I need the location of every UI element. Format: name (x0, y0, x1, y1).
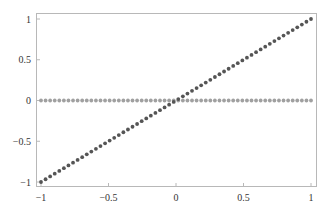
data-point (144, 99, 148, 103)
data-point (117, 99, 121, 103)
data-point (186, 99, 190, 103)
data-point (263, 45, 267, 49)
data-point (231, 64, 235, 68)
data-point (204, 81, 208, 85)
data-point (62, 166, 66, 170)
data-point (236, 61, 240, 65)
data-point (48, 175, 52, 179)
data-point (208, 99, 212, 103)
data-point (190, 99, 194, 103)
data-point (135, 99, 139, 103)
data-point (199, 83, 203, 87)
data-point (71, 161, 75, 165)
data-point (39, 180, 43, 184)
data-point (272, 99, 276, 103)
data-point (286, 31, 290, 35)
data-point (131, 125, 135, 129)
chart: −1−0.500.51 10.50−0.5−1 (0, 0, 336, 212)
x-tick-label: 1 (309, 192, 314, 203)
data-point (135, 122, 139, 126)
data-point (218, 99, 222, 103)
data-point (181, 99, 185, 103)
data-point (263, 99, 267, 103)
data-point (158, 108, 162, 112)
data-point (305, 99, 309, 103)
data-point (272, 39, 276, 43)
data-point (195, 99, 199, 103)
data-point (140, 99, 144, 103)
data-point (309, 17, 313, 21)
data-point (76, 99, 80, 103)
data-point (39, 99, 43, 103)
data-point (231, 99, 235, 103)
data-point (204, 99, 208, 103)
data-point (85, 152, 89, 156)
data-point (44, 99, 48, 103)
data-point (240, 99, 244, 103)
data-point (149, 114, 153, 118)
series-y-x (39, 17, 313, 184)
data-point (53, 99, 57, 103)
data-point (112, 99, 116, 103)
data-point (85, 99, 89, 103)
data-point (227, 67, 231, 71)
data-point (176, 97, 180, 101)
x-tick-label: −1 (36, 192, 47, 203)
data-point (80, 155, 84, 159)
data-point (295, 25, 299, 29)
data-point (154, 111, 158, 115)
data-point (245, 56, 249, 60)
data-point (305, 20, 309, 24)
data-point (309, 99, 313, 103)
x-tick-label: −0.5 (99, 192, 117, 203)
data-point (245, 99, 249, 103)
data-point (291, 99, 295, 103)
y-axis-ticks: 10.50−0.5−1 (13, 14, 40, 188)
data-point (53, 172, 57, 176)
data-point (240, 59, 244, 63)
series-layer (39, 17, 313, 184)
data-point (282, 34, 286, 38)
data-point (71, 99, 75, 103)
data-point (227, 99, 231, 103)
data-point (103, 99, 107, 103)
series-y-0 (39, 99, 313, 103)
data-point (108, 99, 112, 103)
data-point (121, 130, 125, 134)
data-point (126, 99, 130, 103)
data-point (222, 70, 226, 74)
data-point (259, 99, 263, 103)
data-point (190, 89, 194, 93)
data-point (112, 136, 116, 140)
y-tick-label: 1 (26, 14, 31, 25)
data-point (89, 150, 93, 154)
data-point (199, 99, 203, 103)
data-point (140, 119, 144, 123)
data-point (144, 117, 148, 121)
data-point (167, 99, 171, 103)
x-tick-label: 0.5 (237, 192, 250, 203)
data-point (208, 78, 212, 82)
data-point (186, 92, 190, 96)
data-point (117, 133, 121, 137)
data-point (121, 99, 125, 103)
data-point (286, 99, 290, 103)
data-point (254, 99, 258, 103)
data-point (218, 72, 222, 76)
data-point (57, 99, 61, 103)
data-point (254, 50, 258, 54)
data-point (259, 47, 263, 51)
y-tick-label: 0.5 (19, 54, 32, 65)
data-point (277, 36, 281, 40)
data-point (89, 99, 93, 103)
data-point (80, 99, 84, 103)
data-point (131, 99, 135, 103)
data-point (149, 99, 153, 103)
data-point (158, 99, 162, 103)
x-tick-label: 0 (174, 192, 179, 203)
data-point (295, 99, 299, 103)
y-tick-label: −1 (20, 177, 31, 188)
y-tick-label: −0.5 (13, 136, 31, 147)
data-point (195, 86, 199, 90)
data-point (213, 99, 217, 103)
